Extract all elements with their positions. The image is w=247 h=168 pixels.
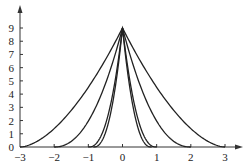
x-tick-label: 2 bbox=[188, 151, 194, 163]
y-axis-arrow-icon bbox=[18, 5, 23, 13]
y-tick-label: 7 bbox=[9, 48, 15, 60]
y-tick-label: 6 bbox=[9, 62, 15, 74]
y-tick-label: 9 bbox=[9, 22, 15, 34]
y-tick-label: 5 bbox=[9, 75, 15, 87]
y-tick-label: 8 bbox=[9, 35, 15, 47]
x-tick-label: 1 bbox=[154, 151, 160, 163]
y-tick-label: 1 bbox=[9, 128, 15, 140]
axes bbox=[18, 5, 244, 150]
chart: −3−2−10123 0123456789 bbox=[0, 0, 247, 168]
chart-canvas: −3−2−10123 0123456789 bbox=[0, 0, 247, 168]
curve-curve-support-3 bbox=[20, 28, 225, 147]
y-tick-label: 4 bbox=[9, 88, 15, 100]
curve-curve-support-2 bbox=[54, 28, 191, 147]
curve-curve-support-0.8 bbox=[93, 28, 151, 147]
x-tick-label: 0 bbox=[120, 151, 126, 163]
x-tick-label: −3 bbox=[14, 151, 26, 163]
x-tick-label: −1 bbox=[82, 151, 94, 163]
curve-curve-support-1 bbox=[88, 28, 156, 147]
y-tick-label: 3 bbox=[9, 101, 15, 113]
x-axis-arrow-icon bbox=[235, 145, 243, 150]
x-tick-label: 3 bbox=[222, 151, 228, 163]
x-tick-label: −2 bbox=[48, 151, 60, 163]
y-tick-label: 0 bbox=[9, 141, 15, 153]
y-tick-label: 2 bbox=[9, 115, 15, 127]
curves bbox=[20, 28, 225, 147]
y-ticks: 0123456789 bbox=[9, 22, 24, 153]
